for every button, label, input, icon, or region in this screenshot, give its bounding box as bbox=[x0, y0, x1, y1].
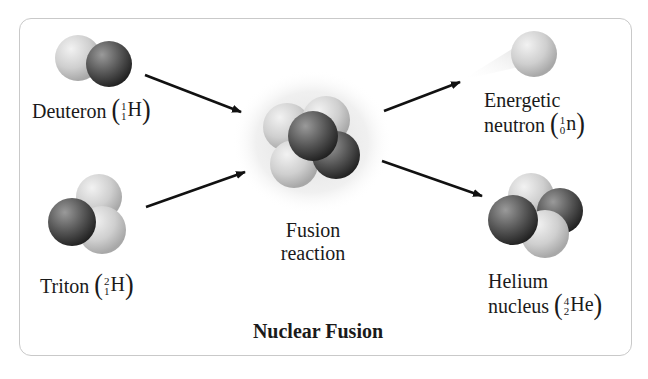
triton-label: Triton ( 21 H ) bbox=[40, 273, 134, 298]
diagram-title: Nuclear Fusion bbox=[0, 320, 642, 343]
neutron-isotope-notation: ( 10 n ) bbox=[550, 112, 585, 135]
deuteron-label: Deuteron ( 11 H ) bbox=[32, 98, 151, 123]
arrow-deuteron-to-fusion bbox=[145, 75, 241, 112]
fusion-reaction-label: Fusion reaction bbox=[268, 219, 358, 265]
helium-isotope-notation: ( 42 He ) bbox=[554, 293, 602, 316]
arrow-triton-to-fusion bbox=[146, 172, 245, 207]
neutron-icon bbox=[462, 31, 557, 80]
triton-nucleus-icon bbox=[48, 174, 126, 254]
arrow-fusion-to-helium bbox=[382, 161, 482, 196]
deuteron-isotope-notation: ( 11 H ) bbox=[111, 98, 150, 121]
arrow-fusion-to-neutron bbox=[384, 82, 460, 111]
triton-isotope-notation: ( 21 H ) bbox=[94, 273, 133, 296]
neutron-label: Energetic neutron ( 10 n ) bbox=[484, 89, 585, 137]
deuteron-nucleus-icon bbox=[55, 35, 132, 87]
fusion-reaction-icon bbox=[232, 70, 392, 214]
helium-nucleus-icon bbox=[488, 173, 583, 258]
helium-label: Helium nucleus ( 42 He ) bbox=[488, 270, 602, 318]
